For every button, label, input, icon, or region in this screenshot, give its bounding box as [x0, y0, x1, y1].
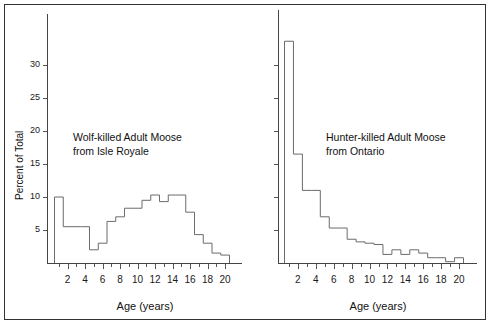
right-x-tick [370, 264, 371, 269]
right-histogram-outline [285, 41, 464, 263]
right-y-tick [274, 65, 278, 66]
left-y-tick-label: 25 [16, 92, 40, 102]
left-x-tick-label: 4 [76, 274, 94, 285]
left-x-tick [164, 264, 165, 267]
left-y-tick-label: 5 [16, 224, 40, 234]
left-x-tick-label: 10 [129, 274, 147, 285]
left-x-tick [146, 264, 147, 267]
left-x-tick [181, 264, 182, 267]
right-x-tick [396, 264, 397, 267]
left-x-tick [155, 264, 156, 269]
right-x-tick [343, 264, 344, 267]
left-x-tick-label: 20 [216, 274, 234, 285]
right-x-tick [387, 264, 388, 269]
left-x-tick [103, 264, 104, 269]
panel-right-hunter-killed: Age (years) Hunter-killed Adult Moose fr… [245, 0, 490, 324]
right-y-tick [274, 230, 278, 231]
left-y-tick-label: 10 [16, 191, 40, 201]
left-x-tick [208, 264, 209, 269]
left-x-tick [138, 264, 139, 269]
left-x-tick [59, 264, 60, 267]
right-x-tick-label: 16 [414, 274, 432, 285]
right-x-tick [450, 264, 451, 267]
left-x-tick [85, 264, 86, 269]
left-y-tick-label: 15 [16, 158, 40, 168]
left-y-tick-label: 20 [16, 125, 40, 135]
left-x-tick-label: 6 [94, 274, 112, 285]
left-x-tick [190, 264, 191, 269]
right-x-tick-label: 8 [343, 274, 361, 285]
right-x-tick [459, 264, 460, 269]
right-x-tick [334, 264, 335, 269]
left-x-tick-label: 14 [164, 274, 182, 285]
right-x-tick-label: 2 [289, 274, 307, 285]
right-x-tick [441, 264, 442, 269]
right-y-tick [274, 197, 278, 198]
right-x-tick [405, 264, 406, 269]
right-x-tick [298, 264, 299, 269]
right-x-tick-label: 20 [450, 274, 468, 285]
left-x-tick [225, 264, 226, 269]
right-y-tick [274, 131, 278, 132]
right-x-tick-label: 6 [325, 274, 343, 285]
left-y-tick [43, 131, 47, 132]
left-y-tick [43, 98, 47, 99]
left-x-tick [129, 264, 130, 267]
right-x-tick [379, 264, 380, 267]
left-histogram-outline [55, 195, 230, 263]
left-y-tick [43, 65, 47, 66]
left-x-tick-label: 16 [181, 274, 199, 285]
left-x-tick [76, 264, 77, 267]
left-x-tick [216, 264, 217, 267]
panel-left-wolf-killed: Percent of Total Age (years) Wolf-killed… [0, 0, 245, 324]
right-x-tick-label: 4 [307, 274, 325, 285]
left-x-tick-label: 12 [146, 274, 164, 285]
right-x-tick [316, 264, 317, 269]
right-x-tick [361, 264, 362, 267]
left-x-tick-label: 18 [199, 274, 217, 285]
figure-root: Percent of Total Age (years) Wolf-killed… [0, 0, 490, 324]
right-x-tick [432, 264, 433, 267]
right-x-tick [414, 264, 415, 267]
right-x-tick-label: 12 [378, 274, 396, 285]
left-y-tick [43, 164, 47, 165]
left-x-tick-label: 2 [59, 274, 77, 285]
left-x-tick [94, 264, 95, 267]
right-y-tick [274, 164, 278, 165]
left-x-tick [111, 264, 112, 267]
left-x-tick-label: 8 [111, 274, 129, 285]
left-y-tick [43, 197, 47, 198]
left-x-tick [120, 264, 121, 269]
right-x-tick [289, 264, 290, 267]
right-x-tick [352, 264, 353, 269]
right-x-tick-label: 18 [432, 274, 450, 285]
left-y-tick [43, 230, 47, 231]
left-y-tick-label: 30 [16, 59, 40, 69]
left-x-tick [173, 264, 174, 269]
left-x-tick [199, 264, 200, 267]
right-x-tick-label: 10 [361, 274, 379, 285]
right-x-tick [307, 264, 308, 267]
right-x-tick [325, 264, 326, 267]
left-x-tick [68, 264, 69, 269]
right-x-tick [423, 264, 424, 269]
right-x-tick-label: 14 [396, 274, 414, 285]
right-y-tick [274, 98, 278, 99]
